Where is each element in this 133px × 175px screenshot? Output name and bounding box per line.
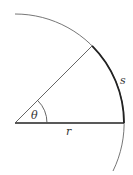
radius-label-r: r [66, 125, 72, 138]
radius-line-slanted [15, 46, 92, 123]
angle-label-theta: θ [31, 109, 38, 122]
arc-length-diagram: θ r s [0, 0, 133, 175]
arc-length-label-s: s [120, 74, 126, 87]
angle-marker-arc [38, 100, 47, 123]
circle-arc [15, 14, 124, 171]
